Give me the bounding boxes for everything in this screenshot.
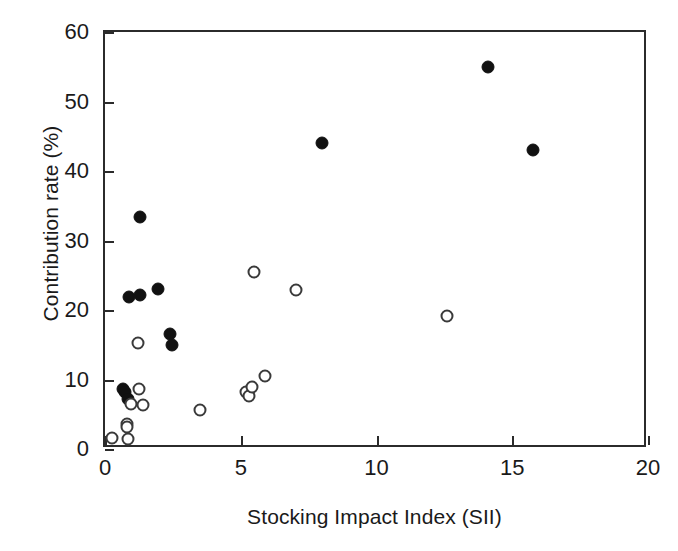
data-point-open	[441, 309, 454, 322]
data-point-filled	[481, 60, 494, 73]
data-point-filled	[526, 144, 539, 157]
y-tick-label: 0	[77, 438, 89, 460]
data-point-filled	[151, 283, 164, 296]
data-point-open	[259, 370, 272, 383]
data-point-filled	[316, 137, 329, 150]
data-point-open	[245, 381, 258, 394]
data-point-open	[248, 266, 261, 279]
y-tick-mark	[105, 102, 114, 104]
x-tick-label: 15	[500, 457, 524, 479]
y-tick-mark	[105, 310, 114, 312]
x-tick-mark	[512, 436, 514, 445]
data-point-filled	[134, 289, 147, 302]
y-tick-label: 60	[65, 21, 89, 43]
x-tick-mark	[648, 436, 650, 445]
x-tick-label: 0	[99, 457, 111, 479]
x-tick-label: 5	[235, 457, 247, 479]
y-tick-label: 30	[65, 230, 89, 252]
data-point-filled	[165, 339, 178, 352]
data-point-open	[105, 431, 118, 444]
data-point-open	[124, 397, 137, 410]
y-tick-mark	[105, 171, 114, 173]
y-tick-label: 50	[65, 91, 89, 113]
plot-area: 0102030405060 05101520	[103, 30, 646, 447]
scatter-chart-figure: Contribution rate (%) 0102030405060 0510…	[0, 0, 678, 551]
x-tick-mark	[241, 436, 243, 445]
data-point-open	[132, 382, 145, 395]
y-tick-mark	[105, 380, 114, 382]
x-tick-mark	[377, 436, 379, 445]
x-axis-title: Stocking Impact Index (SII)	[103, 505, 646, 529]
data-point-open	[137, 399, 150, 412]
y-tick-label: 40	[65, 160, 89, 182]
data-point-filled	[134, 210, 147, 223]
y-tick-mark	[105, 449, 114, 451]
data-point-open	[194, 404, 207, 417]
data-point-open	[131, 336, 144, 349]
y-tick-mark	[105, 32, 114, 34]
data-point-open	[122, 433, 135, 446]
y-tick-label: 20	[65, 299, 89, 321]
y-axis-title: Contribution rate (%)	[34, 0, 68, 447]
y-tick-label: 10	[65, 369, 89, 391]
y-tick-mark	[105, 241, 114, 243]
x-tick-label: 10	[364, 457, 388, 479]
data-point-open	[290, 283, 303, 296]
x-tick-label: 20	[636, 457, 660, 479]
